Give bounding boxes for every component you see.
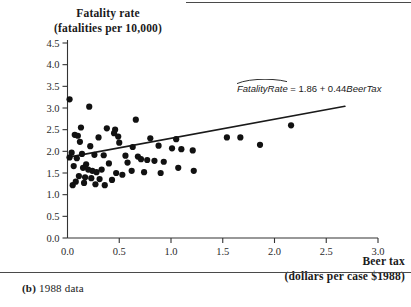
data-point [82, 174, 88, 180]
x-axis-tick-label: 0.0 [61, 246, 74, 257]
y-axis-tick-label: 2.0 [46, 146, 59, 157]
data-point [113, 170, 119, 176]
y-axis-tick-label: 4.5 [46, 38, 59, 49]
caption-label: (b) [22, 282, 36, 294]
y-axis-tick-label: 2.5 [46, 124, 59, 135]
dependent-variable-label: FatalityRate [237, 83, 288, 94]
hat-accent-icon [236, 79, 287, 84]
x-axis-tick-label: 1.0 [164, 246, 177, 257]
x-axis-title-line2: (dollars per case $1988) [205, 269, 405, 284]
data-point [257, 142, 263, 148]
data-point [224, 134, 230, 140]
data-point [109, 177, 115, 183]
y-axis-tick-label: 1.5 [46, 168, 59, 179]
data-point [66, 154, 72, 160]
x-axis-title-line1: Beer tax [362, 255, 405, 267]
data-point [151, 158, 157, 164]
figure-panel: Fatality rate (fatalities per 10,000) 0.… [0, 0, 411, 307]
regression-line [68, 106, 345, 157]
data-point [76, 173, 82, 179]
data-point [79, 151, 85, 157]
fitted-variable-with-hat: FatalityRate [237, 83, 288, 94]
data-point [95, 134, 101, 140]
x-axis-tick-label: 0.5 [113, 246, 126, 257]
regression-equation-annotation: FatalityRate = 1.86 + 0.44BeerTax [237, 83, 381, 94]
data-point [155, 143, 161, 149]
data-point [191, 168, 197, 174]
bottom-divider [0, 272, 411, 273]
data-point [91, 152, 97, 158]
y-axis-tick-label: 3.0 [46, 103, 59, 114]
data-point [71, 163, 77, 169]
data-point [81, 180, 87, 186]
data-point [169, 145, 175, 151]
data-point [88, 175, 94, 181]
y-axis-tick-label: 0.0 [46, 233, 59, 244]
data-point [78, 124, 84, 130]
data-point-group [66, 96, 294, 188]
data-point [288, 122, 294, 128]
x-axis-title: Beer tax (dollars per case $1988) [205, 254, 405, 283]
data-point [101, 152, 107, 158]
data-point [106, 160, 112, 166]
data-point [102, 182, 108, 188]
y-axis-tick-label: 3.5 [46, 81, 59, 92]
data-point [175, 165, 181, 171]
data-point [116, 140, 122, 146]
data-point [158, 170, 164, 176]
intercept-value: 1.86 [299, 83, 318, 94]
data-point [74, 155, 80, 161]
data-point [129, 168, 135, 174]
data-point [178, 146, 184, 152]
data-point [122, 153, 128, 159]
figure-caption: (b) 1988 data [22, 282, 84, 294]
data-point [237, 134, 243, 140]
data-point [133, 117, 139, 123]
data-point [77, 139, 83, 145]
y-axis-tick-label: 0.5 [46, 211, 59, 222]
data-point [119, 172, 125, 178]
data-point [96, 176, 102, 182]
data-point [161, 159, 167, 165]
y-axis-tick-label: 4.0 [46, 59, 59, 70]
data-point [141, 169, 147, 175]
data-point [86, 104, 92, 110]
data-point [124, 160, 130, 166]
data-point [87, 143, 93, 149]
data-point [70, 182, 76, 188]
data-point [99, 166, 105, 172]
equation-body: = 1.86 + 0.44BeerTax [288, 83, 382, 94]
data-point [144, 157, 150, 163]
y-axis-tick-label: 1.0 [46, 189, 59, 200]
data-point [66, 96, 72, 102]
independent-variable-label: BeerTax [346, 83, 381, 94]
data-point [75, 133, 81, 139]
slope-value: 0.44 [328, 83, 347, 94]
data-point [173, 136, 179, 142]
data-point [130, 144, 136, 150]
data-point [104, 125, 110, 131]
data-point [115, 134, 121, 140]
data-point [92, 181, 98, 187]
data-point [138, 156, 144, 162]
data-point [190, 147, 196, 153]
data-point [147, 135, 153, 141]
caption-text: 1988 data [39, 282, 84, 294]
